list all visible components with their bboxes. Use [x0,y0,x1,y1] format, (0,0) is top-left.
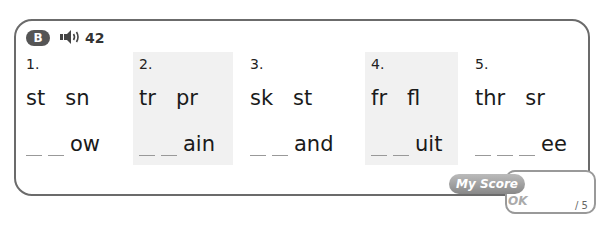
option[interactable]: tr [139,86,156,110]
score-total: / 5 [575,200,588,211]
answer-line: uit [371,132,442,156]
section-badge: B [26,30,50,46]
item-number: 1. [26,56,39,72]
word-suffix: ain [183,132,215,156]
blank[interactable] [48,141,64,156]
item-number: 3. [250,56,263,72]
option[interactable]: thr [475,86,505,110]
blank[interactable] [475,141,491,156]
item-number: 4. [371,56,384,72]
item-options: thrsr [475,86,565,110]
blank[interactable] [497,141,513,156]
blank[interactable] [250,141,266,156]
blank[interactable] [139,141,155,156]
item-options: skst [250,86,332,110]
option[interactable]: fl [407,86,420,110]
word-suffix: ow [70,132,100,156]
option[interactable]: st [26,86,45,110]
option[interactable]: pr [176,86,198,110]
word-suffix: uit [415,132,442,156]
item-options: trpr [139,86,218,110]
item-5: 5. thrsr ee [469,52,584,165]
exercise-header: B 42 [26,28,104,48]
blank[interactable] [26,141,42,156]
blank[interactable] [272,141,288,156]
item-number: 2. [139,56,152,72]
option[interactable]: sn [65,86,89,110]
answer-line: ain [139,132,215,156]
blank[interactable] [393,141,409,156]
option[interactable]: st [293,86,312,110]
item-number: 5. [475,56,488,72]
option[interactable]: sk [250,86,273,110]
word-suffix: and [294,132,334,156]
item-2: 2. trpr ain [133,52,233,165]
blank[interactable] [161,141,177,156]
answer-line: ow [26,132,100,156]
item-options: stsn [26,86,109,110]
answer-line: and [250,132,334,156]
blank[interactable] [519,141,535,156]
item-4: 4. frfl uit [365,52,458,165]
track-number: 42 [85,30,104,46]
ok-label: OK [508,194,528,208]
speaker-icon[interactable] [60,29,82,48]
blank[interactable] [371,141,387,156]
option[interactable]: sr [525,86,545,110]
audio-track[interactable]: 42 [60,29,104,48]
item-3: 3. skst and [244,52,344,165]
item-1: 1. stsn ow [20,52,120,165]
word-suffix: ee [541,132,567,156]
my-score-label: My Score [449,174,525,194]
item-options: frfl [371,86,440,110]
option[interactable]: fr [371,86,387,110]
answer-line: ee [475,132,567,156]
